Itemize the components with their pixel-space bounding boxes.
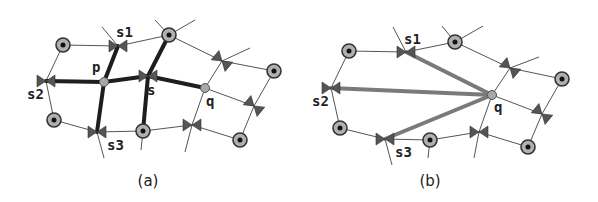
edge: [192, 88, 205, 125]
circle-node-icon: [333, 121, 347, 135]
panel-a: s1s2ss3pq (a): [27, 20, 281, 190]
node-label-s1: s1: [116, 24, 133, 40]
circle-node-icon: [136, 124, 150, 138]
edge: [222, 48, 250, 61]
bowtie-node-icon: [183, 119, 201, 131]
circle-node-icon: [47, 113, 61, 127]
node-label-s2: s2: [312, 93, 329, 109]
bowtie-node-icon: [499, 58, 521, 79]
panel-a-caption: (a): [138, 172, 159, 190]
highlighted-edge: [97, 82, 104, 132]
bowtie-node-icon: [470, 126, 488, 138]
edge: [474, 132, 479, 158]
circle-node-icon: [521, 140, 535, 154]
point-p: [100, 78, 109, 87]
bowtie-node-icon: [376, 133, 394, 145]
circle-node-icon: [555, 72, 569, 86]
point-label-p: p: [92, 59, 100, 75]
panel-b-caption: (b): [419, 172, 440, 190]
panel-b-thick-edges: [331, 52, 492, 139]
node-label-s1: s1: [404, 31, 421, 47]
panel-b: s1s2s3q (b): [312, 26, 569, 190]
node-label-s3: s3: [107, 137, 124, 153]
circle-node-icon: [267, 64, 281, 78]
point-label-q: q: [206, 93, 214, 109]
node-label-s: s: [147, 82, 155, 98]
circle-node-icon: [342, 44, 356, 58]
bowtie-node-icon: [243, 96, 265, 117]
circle-node-icon: [162, 28, 176, 42]
node-label-s2: s2: [27, 86, 44, 102]
edge: [510, 57, 539, 68]
bowtie-node-icon: [211, 51, 233, 72]
node-label-s3: s3: [395, 144, 412, 160]
circle-node-icon: [233, 133, 247, 147]
point-q: [201, 84, 210, 93]
figure-canvas: s1s2ss3pq (a) s1s2s3q (b): [0, 0, 598, 202]
highlighted-edge: [331, 88, 492, 95]
highlighted-edge: [406, 52, 492, 95]
circle-node-icon: [423, 133, 437, 147]
circle-node-icon: [56, 38, 70, 52]
bowtie-node-icon: [397, 46, 415, 58]
highlighted-edge: [104, 46, 118, 82]
point-label-q: q: [494, 99, 502, 115]
circle-node-icon: [448, 35, 462, 49]
bowtie-node-icon: [531, 104, 553, 125]
panel-b-bowtie-nodes: [322, 46, 553, 145]
